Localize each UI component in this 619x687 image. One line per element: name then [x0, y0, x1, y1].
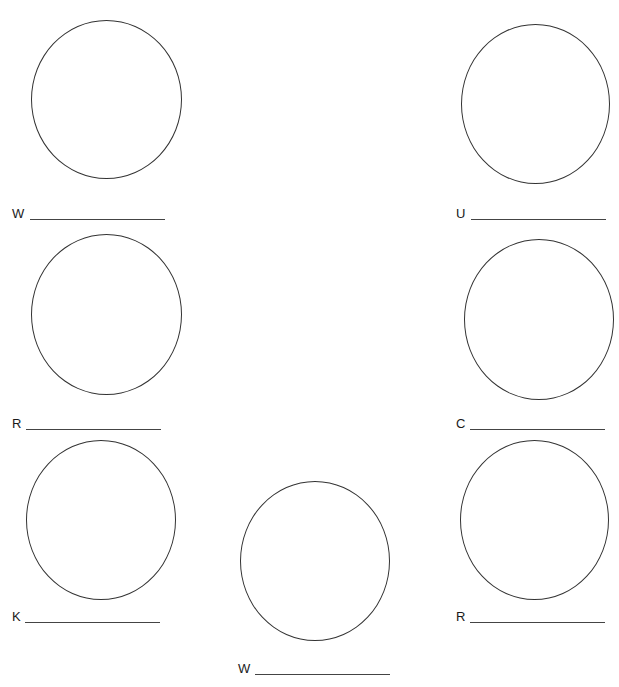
answer-line[interactable] — [470, 429, 605, 430]
drawing-circle[interactable] — [26, 440, 176, 600]
drawing-circle[interactable] — [461, 24, 610, 184]
drawing-circle[interactable] — [31, 20, 182, 179]
drawing-circle[interactable] — [460, 440, 609, 600]
drawing-circle[interactable] — [240, 481, 390, 641]
answer-line[interactable] — [471, 219, 606, 220]
answer-line[interactable] — [26, 429, 161, 430]
letter-label: U — [456, 207, 465, 220]
answer-line[interactable] — [255, 674, 390, 675]
answer-line[interactable] — [25, 622, 160, 623]
letter-label: R — [456, 610, 465, 623]
letter-label: R — [12, 417, 21, 430]
letter-label: K — [12, 610, 21, 623]
answer-line[interactable] — [30, 219, 165, 220]
letter-label: W — [12, 207, 24, 220]
answer-line[interactable] — [470, 622, 605, 623]
drawing-circle[interactable] — [31, 234, 182, 395]
letter-label: C — [456, 417, 465, 430]
letter-label: W — [238, 662, 250, 675]
drawing-circle[interactable] — [464, 239, 614, 400]
